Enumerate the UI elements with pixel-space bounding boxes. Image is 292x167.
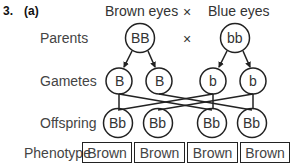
arrow-icon	[243, 51, 250, 67]
gamete-label: B	[115, 74, 124, 88]
offspring-genotype: Bb	[149, 116, 166, 130]
offspring-genotype: Bb	[203, 116, 220, 130]
offspring-genotype: Bb	[109, 116, 126, 130]
arrow-icon	[219, 51, 227, 67]
phenotype-box: Brown	[134, 142, 185, 163]
arrow-icon	[148, 51, 155, 67]
phenotype-box: Brown	[187, 142, 238, 163]
gamete-label: B	[155, 74, 164, 88]
parents-cross: ×	[183, 32, 191, 46]
arrow-icon	[124, 51, 132, 67]
gamete-label: b	[209, 74, 217, 88]
phenotype-box: Brown	[240, 142, 290, 163]
gamete-label: b	[249, 74, 257, 88]
phenotype-box: Brown	[82, 142, 132, 163]
parent-genotype-right: bb	[227, 31, 243, 45]
parent-genotype-left: BB	[131, 31, 150, 45]
offspring-genotype: Bb	[243, 116, 260, 130]
